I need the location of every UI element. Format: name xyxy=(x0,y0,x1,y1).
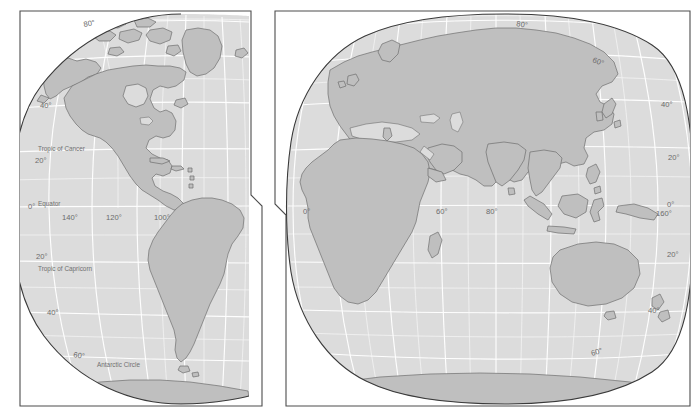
east-lat-label: 80° xyxy=(516,19,529,30)
east-lon-label: 80° xyxy=(486,207,497,216)
western-hemisphere-panel: 80° 40° 20° 0° 20° 40° 60° 140° 120° 100… xyxy=(0,0,280,417)
west-lat-label: 60° xyxy=(73,350,86,361)
east-lat-label: 40° xyxy=(648,306,659,315)
antarctic-circle-label: Antarctic Circle xyxy=(97,361,140,368)
west-lon-label: 140° xyxy=(62,213,78,222)
east-lat-label: 20° xyxy=(667,250,678,259)
equator-label: Equator xyxy=(38,200,61,208)
west-lat-label: 20° xyxy=(36,252,47,261)
east-lat-label: 20° xyxy=(668,153,679,162)
world-map-svg: 80° 40° 20° 0° 20° 40° 60° 140° 120° 100… xyxy=(0,0,700,417)
tropic-of-capricorn-label: Tropic of Capricorn xyxy=(38,265,93,273)
east-lon-label: 160° xyxy=(656,209,672,218)
east-lat-label: 0° xyxy=(667,200,674,209)
east-lat-label: 40° xyxy=(661,100,672,109)
east-ocean xyxy=(270,0,700,417)
east-lon-label: 0° xyxy=(303,207,310,216)
east-lon-label: 60° xyxy=(436,207,447,216)
west-lat-label: 0° xyxy=(28,202,35,211)
west-lat-label: 40° xyxy=(40,101,51,110)
tropic-of-cancer-label: Tropic of Cancer xyxy=(38,145,86,153)
west-lon-label: 100° xyxy=(154,213,170,222)
west-lat-label: 20° xyxy=(35,156,46,165)
eastern-hemisphere-panel: 80° 60° 40° 20° 0° 20° 40° 60° 0° 60° 80… xyxy=(270,0,700,417)
west-lat-label: 40° xyxy=(47,308,58,317)
world-map-figure: 80° 40° 20° 0° 20° 40° 60° 140° 120° 100… xyxy=(0,0,700,417)
west-lon-label: 120° xyxy=(106,213,122,222)
